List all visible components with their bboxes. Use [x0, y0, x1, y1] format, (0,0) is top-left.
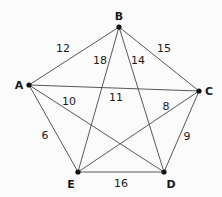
graph-node-a — [26, 82, 31, 87]
node-label-c: C — [205, 86, 213, 97]
edge-weight-a-d: 10 — [62, 96, 76, 107]
node-label-a: A — [15, 80, 24, 91]
edge-weight-e-d: 16 — [114, 178, 128, 189]
graph-diagram: ABCDE 12151814111068916 — [0, 0, 222, 197]
graph-edge-c-e — [78, 91, 199, 172]
graph-node-d — [161, 169, 166, 174]
node-label-b: B — [115, 11, 123, 22]
edge-weight-a-c: 11 — [109, 92, 123, 103]
node-label-d: D — [166, 179, 175, 190]
graph-node-b — [116, 24, 121, 29]
graph-node-c — [196, 88, 201, 93]
edge-weight-a-e: 6 — [42, 130, 49, 141]
edge-weight-b-c: 15 — [157, 43, 171, 54]
edge-weight-a-b: 12 — [56, 43, 70, 54]
edge-weight-c-e: 8 — [163, 101, 170, 112]
node-label-e: E — [67, 179, 75, 190]
graph-node-e — [75, 169, 80, 174]
edge-weight-c-d: 9 — [184, 131, 191, 142]
edge-weight-b-d: 14 — [131, 55, 145, 66]
edge-weight-b-e: 18 — [93, 55, 107, 66]
